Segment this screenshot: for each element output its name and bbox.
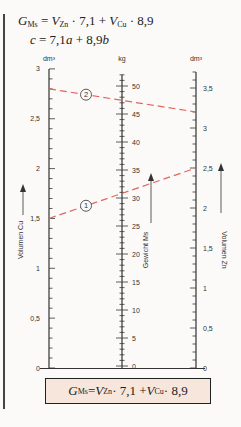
zn-tick-label: 2 [203,205,207,212]
formula-text: · 7,1 + [112,383,146,399]
zn-axis-title: Volumen Zn [221,231,228,268]
zn-tick-label: 1 [203,285,207,292]
ms-tick-label: 35 [132,167,140,174]
zn-tick-label: 2,5 [203,165,213,172]
cu-tick-label: 1 [36,265,40,272]
cu-tick-label: 1,5 [30,215,40,222]
ms-tick-label: 25 [132,223,140,230]
arrow-up-icon [20,184,26,192]
marker-label-1: 1 [84,201,88,210]
formula-text: = [88,383,95,399]
cu-unit-label: dm³ [43,55,56,62]
ms-axis-title: Gewicht Ms [142,231,149,268]
zn-tick-label: 3,5 [203,85,213,92]
marker-label-2: 2 [84,90,88,99]
cu-tick-label: 3 [36,65,40,72]
ms-tick-label: 20 [132,251,140,258]
cu-tick-label: 2 [36,165,40,172]
zn-tick-label: 0 [203,365,207,372]
formula-subscript: Cu [155,387,164,396]
nomogram: 00,511,522,53dm³05101520253035404550kg00… [0,0,241,427]
ms-unit-label: kg [118,55,126,63]
formula-subscript: Zn [103,387,112,396]
formula-subscript: Ms [78,387,88,396]
ms-tick-label: 10 [132,307,140,314]
ms-tick-label: 0 [132,363,136,370]
cu-tick-label: 0,5 [30,315,40,322]
zn-tick-label: 1,5 [203,245,213,252]
zn-tick-label: 3 [203,125,207,132]
formula-symbol: G [68,383,77,399]
cu-tick-label: 2,5 [30,115,40,122]
formula-symbol: V [95,383,103,399]
ms-tick-label: 15 [132,279,140,286]
ms-tick-label: 45 [132,111,140,118]
zn-tick-label: 0,5 [203,325,213,332]
ms-tick-label: 5 [132,335,136,342]
formula-symbol: V [147,383,155,399]
arrow-up-icon [218,163,224,171]
formula-text: · 8,9 [164,383,188,399]
ms-tick-label: 30 [132,195,140,202]
ms-tick-label: 50 [132,83,140,90]
ms-tick-label: 40 [132,139,140,146]
cu-axis-title: Volumen Cu [17,221,24,259]
cu-tick-label: 0 [36,365,40,372]
zn-unit-label: dm³ [190,55,203,62]
arrow-up-icon [148,173,154,181]
formula-box: GMs = VZn · 7,1 + VCu · 8,9 [45,378,211,404]
